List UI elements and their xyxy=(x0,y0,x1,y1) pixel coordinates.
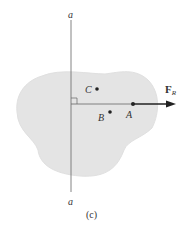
axis-top-label: a xyxy=(68,9,73,20)
point-C-dot xyxy=(95,87,99,91)
diagram-canvas: a a C B A FR (c) xyxy=(0,0,188,228)
force-arrow-head xyxy=(166,101,176,108)
figure-caption: (c) xyxy=(86,209,97,221)
point-C-label: C xyxy=(85,84,92,95)
axis-bottom-label: a xyxy=(68,196,73,207)
force-label: FR xyxy=(165,83,177,97)
point-A-label: A xyxy=(125,109,133,120)
point-B-dot xyxy=(108,110,112,114)
point-B-label: B xyxy=(98,112,104,123)
point-A-dot xyxy=(131,102,135,106)
